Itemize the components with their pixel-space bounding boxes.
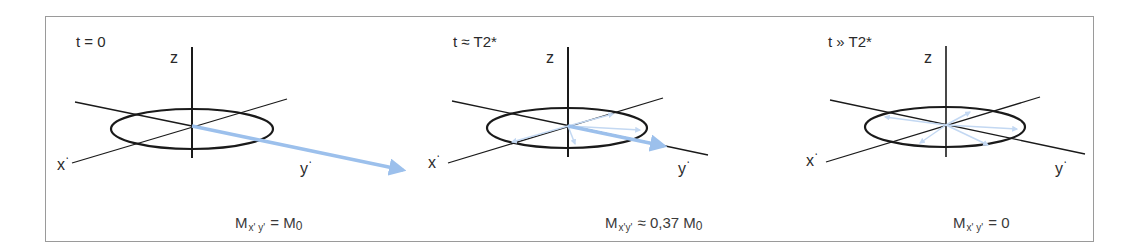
z-axis-label: z (546, 50, 554, 66)
z-axis-label: z (924, 50, 932, 66)
magnetization-formula-panel-1: Mx' y' = M0 (235, 215, 302, 233)
x-axis-label: x‘ (806, 152, 817, 169)
magnetization-formula-panel-2: Mx'y' ≈ 0,37 M0 (605, 215, 702, 233)
y-axis-label: y‘ (678, 160, 689, 177)
time-label-panel-2: t ≈ T2* (453, 34, 497, 49)
magnetization-formula-panel-3: Mx' y' = 0 (953, 215, 1010, 233)
panel-t3-axes (826, 46, 1085, 162)
dephasing-diagram (0, 0, 1145, 249)
y-axis-label: y‘ (1055, 160, 1066, 177)
fully-dephased-spins (885, 112, 1017, 145)
x-axis-label: x‘ (57, 156, 68, 173)
z-axis-label: z (170, 50, 178, 66)
time-label-panel-3: t » T2* (828, 34, 872, 49)
panel-t0-axes (72, 47, 287, 163)
x-axis-back-line (75, 102, 192, 126)
time-label-panel-1: t = 0 (76, 34, 106, 49)
y-axis-label: y‘ (300, 160, 311, 177)
panel-t2-axes (448, 47, 708, 163)
x-axis-label: x‘ (428, 154, 439, 171)
